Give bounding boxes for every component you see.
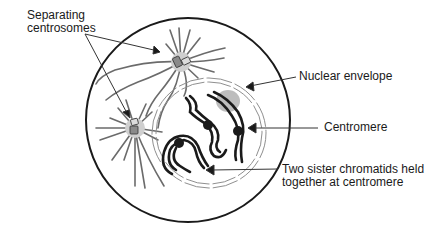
label-separating-centrosomes: Separating centrosomes	[27, 9, 96, 35]
centrosome-lower	[125, 118, 145, 138]
label-nuclear-envelope: Nuclear envelope	[299, 70, 392, 83]
centrosome-upper	[171, 52, 191, 72]
label-sister-chromatids: Two sister chromatids held together at c…	[282, 163, 424, 189]
label-line: together at centromere	[282, 176, 424, 189]
prophase-cell-diagram: Separating centrosomes Nuclear envelope …	[0, 0, 440, 227]
chromosomes	[163, 92, 243, 174]
spindle-fibers-lower	[96, 100, 164, 188]
label-line: centrosomes	[27, 22, 96, 35]
label-centromere: Centromere	[324, 121, 387, 134]
centromeres	[174, 120, 243, 148]
